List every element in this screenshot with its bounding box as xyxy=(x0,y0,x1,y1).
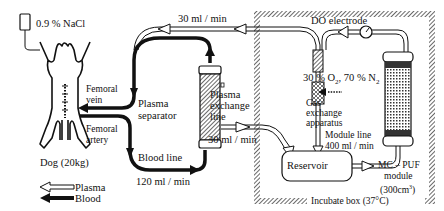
gas-exchange-label-2: exchange xyxy=(306,108,342,119)
legend-plasma-arrow xyxy=(40,182,74,192)
mcpuf-label-2: module xyxy=(384,171,413,182)
gas-exchange-label-1: Gas xyxy=(306,98,321,109)
reservoir-label: Reservoir xyxy=(287,160,328,171)
dog-icon xyxy=(40,42,90,148)
plasma-separator-label-1: Plasma xyxy=(138,98,168,109)
femoral-artery-label-2: artery xyxy=(86,135,108,146)
incubate-box-label: Incubate box (37°C) xyxy=(311,196,389,207)
plasma-separator-label-2: separator xyxy=(138,110,176,121)
femoral-vein-label-1: Femoral xyxy=(86,84,118,95)
legend-plasma-label: Plasma xyxy=(75,182,105,193)
mcpuf-module xyxy=(383,52,413,146)
top-flow-rate: 30 ml / min xyxy=(178,13,227,24)
blood-line-label: Blood line xyxy=(138,152,182,163)
mcpuf-label-1: MC – PUF xyxy=(378,160,420,171)
plasma-exchange-label-2: exchange xyxy=(210,100,250,111)
gas-exchange-label-3: apparatus xyxy=(306,118,342,129)
plasma-exchange-label-1: Plasma xyxy=(210,89,240,100)
plasma-exchange-label-3: line xyxy=(210,111,226,122)
do-electrode-label: DO electrode xyxy=(311,15,367,26)
femoral-artery-label-1: Femoral xyxy=(86,124,118,135)
exchange-flow-rate: 30 ml / min xyxy=(208,134,257,145)
module-line-label-1: Module line xyxy=(325,130,371,141)
mcpuf-label-3: (300cm3) xyxy=(380,182,415,196)
do-electrode-icon xyxy=(360,26,372,38)
femoral-vein-label-2: vein xyxy=(86,95,102,106)
module-line-label-2: 400 ml / min xyxy=(325,141,374,152)
gas-mixture-label: 30 % O2, 70 % N2 xyxy=(303,72,379,88)
legend-blood-arrow xyxy=(40,193,74,203)
saline-label: 0.9 % NaCl xyxy=(36,18,85,29)
blood-flow-rate: 120 ml / min xyxy=(136,176,190,187)
legend-blood-label: Blood xyxy=(75,193,101,204)
dog-label: Dog (20kg) xyxy=(40,157,89,168)
